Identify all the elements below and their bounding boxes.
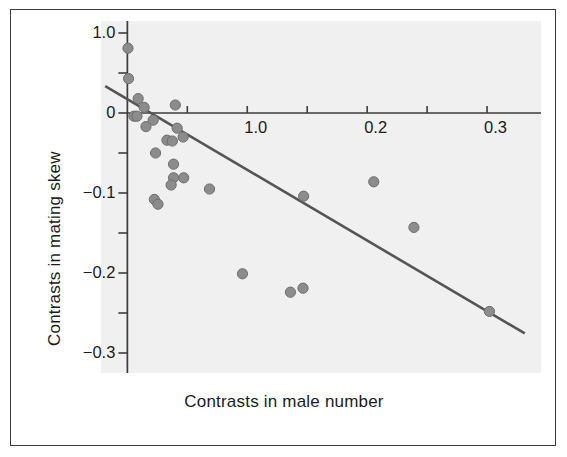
data-point — [168, 159, 178, 169]
data-point — [298, 283, 308, 293]
data-point — [172, 123, 182, 133]
scatter-plot: 1.00.20.31.00−0.1−0.2−0.3 Contrasts in m… — [11, 10, 557, 447]
data-point — [139, 102, 149, 112]
data-point — [299, 191, 309, 201]
x-tick-label: 0.3 — [484, 118, 507, 137]
panel-background — [101, 21, 541, 373]
x-axis-title: Contrasts in male number — [11, 392, 557, 412]
data-point — [409, 222, 419, 232]
y-axis-title: Contrasts in mating skew — [45, 151, 65, 346]
data-point — [178, 132, 188, 142]
data-point — [369, 177, 379, 187]
data-point — [141, 122, 151, 132]
data-point — [285, 287, 295, 297]
data-point — [150, 148, 160, 158]
plot-canvas — [11, 10, 557, 447]
data-point — [484, 306, 494, 316]
y-tick-label: 1.0 — [39, 23, 115, 42]
data-point — [123, 74, 133, 84]
data-point — [179, 173, 189, 183]
figure-border: 1.00.20.31.00−0.1−0.2−0.3 Contrasts in m… — [10, 9, 556, 446]
plot-panel — [101, 21, 541, 373]
x-tick-label: 1.0 — [244, 118, 267, 137]
data-point — [153, 199, 163, 209]
x-tick-label: 0.2 — [364, 118, 387, 137]
data-point — [170, 100, 180, 110]
data-point — [123, 43, 133, 53]
data-point — [133, 94, 143, 104]
data-point — [166, 180, 176, 190]
y-tick-label: 0 — [39, 103, 115, 122]
data-point — [204, 184, 214, 194]
data-point — [132, 111, 142, 121]
data-point — [167, 136, 177, 146]
data-point — [237, 269, 247, 279]
